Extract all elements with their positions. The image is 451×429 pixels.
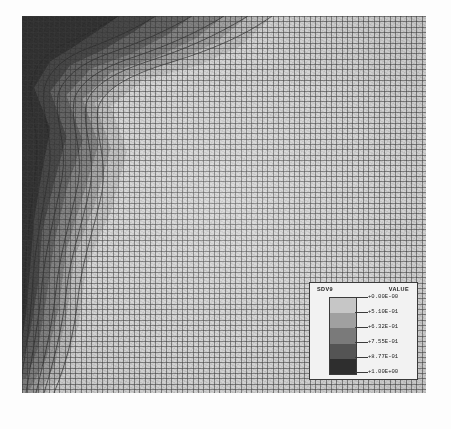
fea-contour-figure: SDV9 VALUE +0.00E-00 +5.10E-01 +6.32E-01… bbox=[0, 0, 451, 429]
colorbar-tick bbox=[355, 372, 368, 373]
colorbar-label: +1.00E+00 bbox=[368, 368, 398, 375]
legend-value-header: VALUE bbox=[389, 286, 409, 292]
colorbar-swatch-3 bbox=[330, 328, 356, 343]
colorbar-swatch-1 bbox=[330, 298, 356, 313]
colorbar bbox=[329, 297, 357, 375]
colorbar-label: +6.32E-01 bbox=[368, 323, 398, 330]
legend-variable-label: SDV9 bbox=[317, 286, 333, 292]
colorbar-label: +7.55E-01 bbox=[368, 338, 398, 345]
colorbar-tick bbox=[355, 327, 368, 328]
contour-legend: SDV9 VALUE +0.00E-00 +5.10E-01 +6.32E-01… bbox=[309, 282, 418, 380]
colorbar-tick bbox=[355, 342, 368, 343]
colorbar-swatch-5 bbox=[330, 359, 356, 374]
colorbar-swatch-2 bbox=[330, 313, 356, 328]
colorbar-tick bbox=[355, 297, 368, 298]
colorbar-label: +5.10E-01 bbox=[368, 308, 398, 315]
colorbar-label: +8.77E-01 bbox=[368, 353, 398, 360]
colorbar-swatch-4 bbox=[330, 344, 356, 359]
colorbar-tick bbox=[355, 312, 368, 313]
colorbar-tick bbox=[355, 357, 368, 358]
colorbar-ticks bbox=[355, 296, 369, 374]
colorbar-label: +0.00E-00 bbox=[368, 293, 398, 300]
colorbar-labels: +0.00E-00 +5.10E-01 +6.32E-01 +7.55E-01 … bbox=[368, 293, 416, 377]
